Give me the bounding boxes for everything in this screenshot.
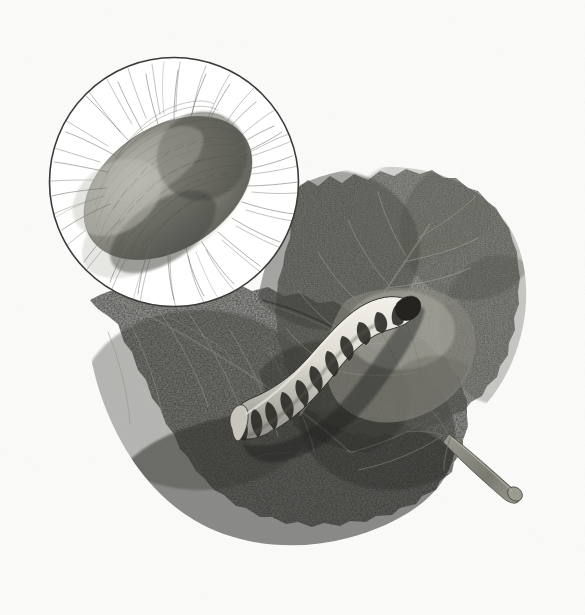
plate-canvas xyxy=(0,0,585,615)
engraving-plate xyxy=(0,0,585,615)
